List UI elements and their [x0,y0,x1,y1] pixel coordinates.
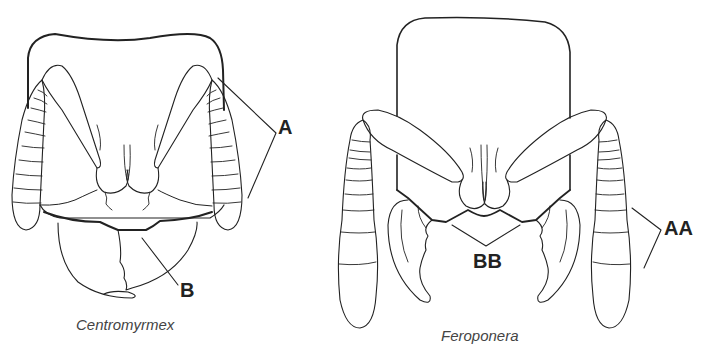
feroponera-head-capsule [397,18,570,119]
centromyrmex-clypeal-margin [44,212,212,230]
leader-line-b [142,238,178,285]
leader-line-a [218,78,276,198]
centromyrmex-head-drawing [12,34,276,298]
figure-drawing [0,0,704,357]
caption-centromyrmex: Centromyrmex [76,317,174,333]
label-a: A [278,117,292,137]
centromyrmex-right-antenna [209,80,242,230]
feroponera-head-drawing [338,18,661,329]
leader-line-aa [632,208,661,268]
feroponera-right-scape [506,110,607,182]
label-b: B [180,280,194,300]
ant-head-comparison-figure: A B AA BB Centromyrmex Feroponera [0,0,704,357]
label-bb: BB [473,251,502,271]
centromyrmex-left-scape [42,65,101,168]
label-aa: AA [664,218,693,238]
caption-feroponera: Feroponera [441,328,519,344]
feroponera-left-scape [363,110,464,182]
centromyrmex-right-scape [154,65,212,168]
centromyrmex-head-capsule [28,34,224,110]
feroponera-left-mandible [388,200,432,302]
feroponera-right-mandible [536,200,580,302]
centromyrmex-mandibles [58,222,197,298]
leader-line-bb [452,225,520,246]
